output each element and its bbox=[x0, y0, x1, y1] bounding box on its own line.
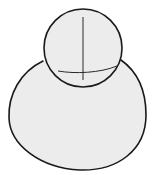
drawing-canvas bbox=[0, 0, 153, 175]
